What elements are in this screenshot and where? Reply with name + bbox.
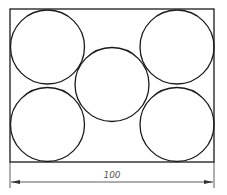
dimension-label: 100 (103, 170, 120, 180)
bottom-right-circle (140, 88, 214, 162)
bottom-left-circle (11, 88, 85, 162)
top-right-circle (140, 10, 214, 84)
outer-rectangle (10, 9, 214, 162)
drawing-canvas: 100 (0, 0, 227, 195)
center-circle (75, 48, 149, 122)
top-left-circle (11, 10, 85, 84)
